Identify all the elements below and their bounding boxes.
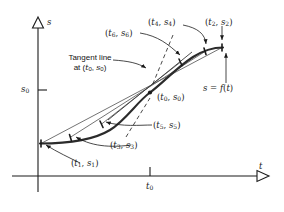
- tangent-line-annotation-line2: at (t0, s0): [55, 63, 125, 74]
- x-axis-label: t: [259, 162, 262, 171]
- point-label-t1-ssub: 1: [91, 161, 95, 168]
- y-tick-label-s0: s0: [21, 85, 29, 94]
- x-tick-label-subscript: 0: [149, 184, 153, 191]
- point-label-t2-ssub: 2: [225, 20, 229, 27]
- point-label-t6: (t6, s6): [105, 29, 133, 38]
- point-label-t0: (t0, s0): [157, 93, 185, 102]
- function-label-equals: =: [207, 83, 220, 93]
- tangent-line-annotation-line1: Tangent line: [55, 53, 125, 63]
- point-label-t0-tsub: 0: [164, 95, 168, 102]
- tangent-paren-open: at (: [74, 63, 86, 72]
- axes-group: [12, 17, 269, 192]
- point-label-t4-ssub: 4: [168, 20, 172, 27]
- point-label-t6-ssub: 6: [125, 31, 129, 38]
- x-tick-label-t0: t0: [146, 182, 153, 191]
- leader-to-t6: [140, 33, 180, 55]
- y-axis-arrowhead-icon: [33, 17, 44, 28]
- marker-t4: [204, 48, 206, 55]
- function-label-paren-close: ): [230, 83, 233, 93]
- tangent-line-annotation: Tangent line at (t0, s0): [55, 53, 125, 73]
- point-label-t3: (t3, s3): [110, 141, 138, 150]
- point-label-t1-tsub: 1: [78, 161, 82, 168]
- diagram-canvas: [0, 0, 284, 212]
- leader-to-t4: [183, 25, 206, 44]
- y-axis-label: s: [47, 18, 51, 27]
- leader-to-t5: [106, 122, 152, 125]
- point-label-t5-ssub: 5: [173, 123, 177, 130]
- point-label-t2: (t2, s2): [205, 18, 233, 27]
- marker-t5: [100, 121, 103, 128]
- y-tick-label-subscript: 0: [25, 87, 29, 94]
- point-label-t4: (t4, s4): [148, 18, 176, 27]
- figure-container: s t s0 t0 Tangent line at (t0, s0) s = f…: [0, 0, 284, 212]
- point-label-t5-tsub: 5: [160, 123, 164, 130]
- x-axis-arrowhead-icon: [257, 171, 269, 182]
- point-label-t3-tsub: 3: [117, 143, 121, 150]
- point-label-t2-tsub: 2: [212, 20, 216, 27]
- point-label-t1: (t1, s1): [71, 159, 99, 168]
- function-label: s = f(t): [203, 84, 233, 93]
- marker-t0: [148, 90, 152, 94]
- point-label-t6-tsub: 6: [112, 31, 116, 38]
- point-label-t0-ssub: 0: [177, 95, 181, 102]
- point-label-t3-ssub: 3: [130, 143, 134, 150]
- tangent-paren-close: ): [104, 63, 107, 72]
- point-label-t4-tsub: 4: [155, 20, 159, 27]
- point-label-t5: (t5, s5): [153, 121, 181, 130]
- marker-t3: [70, 135, 72, 142]
